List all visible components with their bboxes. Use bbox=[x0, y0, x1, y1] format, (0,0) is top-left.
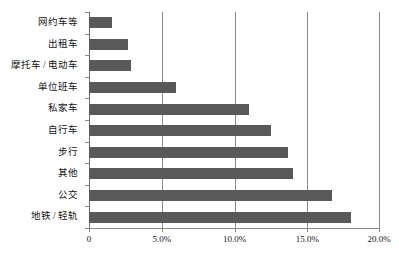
bar bbox=[89, 190, 332, 201]
bar bbox=[89, 17, 112, 28]
bar-row bbox=[89, 34, 380, 56]
bar-row bbox=[89, 55, 380, 77]
bar bbox=[89, 147, 288, 158]
y-axis-label: 自行车 bbox=[48, 120, 78, 142]
bar bbox=[89, 104, 249, 115]
bar bbox=[89, 168, 293, 179]
y-axis-label: 单位班车 bbox=[38, 77, 78, 99]
bar-row bbox=[89, 185, 380, 207]
x-axis-tick bbox=[235, 228, 236, 232]
x-axis-tick bbox=[162, 228, 163, 232]
x-axis-label: 0 bbox=[87, 234, 92, 244]
y-axis-labels: 网约车等 出租车 摩托车 / 电动车 单位班车 私家车 自行车 步行 其他 公交… bbox=[0, 12, 84, 228]
x-axis-label: 20.0% bbox=[367, 234, 390, 244]
bar bbox=[89, 60, 131, 71]
plot-area bbox=[89, 12, 380, 228]
x-axis-label: 10.0% bbox=[223, 234, 246, 244]
y-axis-label: 地铁 / 轻轨 bbox=[31, 206, 78, 228]
y-axis-label: 公交 bbox=[58, 185, 78, 207]
bar bbox=[89, 125, 271, 136]
y-axis-label: 私家车 bbox=[48, 98, 78, 120]
bar bbox=[89, 212, 351, 223]
y-axis-label: 步行 bbox=[58, 142, 78, 164]
bar-row bbox=[89, 98, 380, 120]
bar-chart: 网约车等 出租车 摩托车 / 电动车 单位班车 私家车 自行车 步行 其他 公交… bbox=[0, 0, 399, 258]
y-axis-label: 网约车等 bbox=[38, 12, 78, 34]
bar-row bbox=[89, 77, 380, 99]
x-axis-label: 15.0% bbox=[296, 234, 319, 244]
bar-row bbox=[89, 163, 380, 185]
bar bbox=[89, 39, 128, 50]
y-axis-label: 出租车 bbox=[48, 34, 78, 56]
x-axis-tick bbox=[307, 228, 308, 232]
bar-row bbox=[89, 142, 380, 164]
y-axis-label: 摩托车 / 电动车 bbox=[11, 55, 78, 77]
x-axis-label: 5.0% bbox=[152, 234, 171, 244]
bar bbox=[89, 82, 176, 93]
y-axis-label: 其他 bbox=[58, 163, 78, 185]
bar-row bbox=[89, 206, 380, 228]
bar-row bbox=[89, 120, 380, 142]
bar-row bbox=[89, 12, 380, 34]
x-axis-tick bbox=[89, 228, 90, 232]
x-axis-tick bbox=[379, 228, 380, 232]
